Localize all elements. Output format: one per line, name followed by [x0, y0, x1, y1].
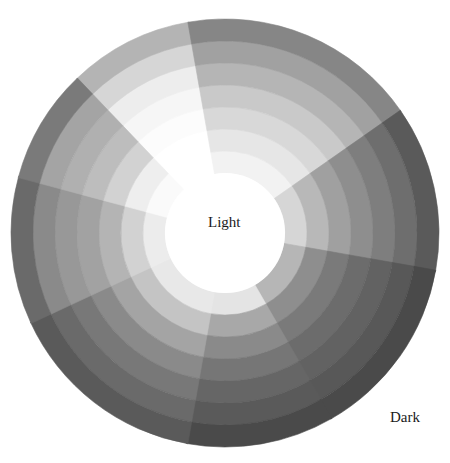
grayscale-value-wheel: [0, 0, 450, 463]
light-label: Light: [208, 214, 241, 231]
dark-label: Dark: [390, 409, 420, 426]
center-disc: [165, 173, 285, 293]
